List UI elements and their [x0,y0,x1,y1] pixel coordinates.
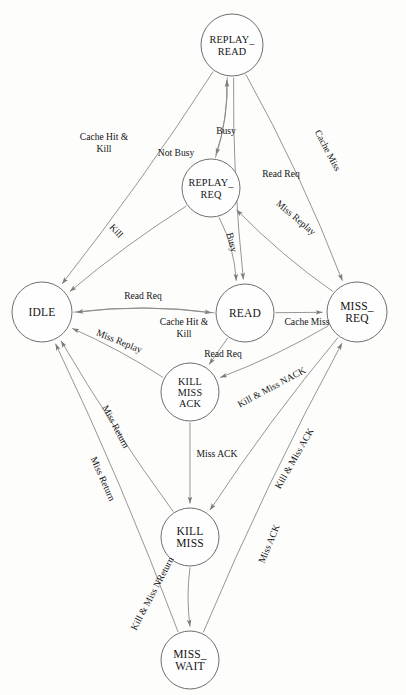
edge-label-miss_req-to-replay_req: Miss Replay [274,198,318,238]
node-label-miss_req: MISS_ [340,300,374,312]
edge-label-text: Miss ACK [197,448,238,459]
node-label-kill_miss_ack: ACK [179,398,202,409]
edge-label-text: Miss Replay [274,198,318,238]
node-circle-replay_req [182,159,240,217]
node-label-miss_req: REQ [345,312,369,324]
node-label-replay_read: READ [218,46,247,57]
edge-label-text: Busy [225,231,240,253]
edge-label-kill_miss-to-miss_wait: Kill & Miss NReturn [128,555,176,632]
node-idle: IDLE [12,282,72,342]
node-label-read: READ [229,307,261,319]
nodes-layer: REPLAY_READREPLAY_REQIDLEREADMISS_REQKIL… [12,14,387,689]
edge-label-text: Miss ACK [256,523,282,565]
edge-label-kill_miss-to-idle: Miss Return [100,403,132,450]
node-miss_req: MISS_REQ [327,282,387,342]
node-label-kill_miss_ack: MISS [178,387,203,398]
node-label-replay_read: REPLAY_ [209,34,255,45]
edge-label-replay_req-to-replay_read: Not Busy [158,147,195,158]
node-label-kill_miss: MISS [176,537,204,549]
node-label-replay_req: REPLAY_ [188,177,234,188]
node-replay_req: REPLAY_REQ [182,159,240,217]
edge-label-read-to-kill_miss_ack: Read Req [204,348,242,359]
edge-label-text: Read Req [204,348,242,359]
edge-label-text: Cache Hit & [160,316,209,327]
edge-read-to-idle [77,308,215,313]
edge-label-text: Miss Replay [95,327,144,355]
edge-label-miss_wait-to-idle: Miss Return [89,455,118,503]
edge-label-text: Cache Miss [313,128,344,173]
edge-label-kill_miss_ack-to-kill_miss: Miss ACK [197,448,238,459]
edge-label-replay_read-to-read: Read Req [262,168,300,179]
edge-label-text: Cache Hit & [80,131,129,142]
diagram-canvas: REPLAY_READREPLAY_REQIDLEREADMISS_REQKIL… [0,0,406,695]
edge-label-text: Cache Miss [284,316,329,327]
node-replay_read: REPLAY_READ [201,14,263,76]
edge-replay_req-to-replay_read [215,80,227,158]
edge-label-text: Read Req [124,290,162,301]
node-label-replay_req: REQ [201,189,222,200]
edge-kill_miss-to-miss_wait [188,568,190,627]
edge-label-replay_req-to-read: Busy [225,231,240,253]
node-miss_wait: MISS_WAIT [161,631,219,689]
edge-label-read-to-idle: Cache Hit &Kill [160,316,209,339]
node-label-idle: IDLE [29,306,56,318]
edge-label-miss_wait-to-miss_req: Miss ACK [256,523,282,565]
edge-replay_read-to-replay_req [216,77,228,155]
node-circle-replay_read [201,14,263,76]
node-label-kill_miss_ack: KILL [178,376,202,387]
edge-label-replay_read-to-replay_req: Busy [216,125,236,136]
node-label-kill_miss: KILL [177,525,204,537]
edge-label-read-to-miss_req: Cache Miss [284,316,329,327]
node-label-miss_wait: MISS_ [173,648,207,660]
edge-label-miss_req-to-kill_miss_ack: Kill & Miss NACK [235,364,307,409]
edge-label-text: Kill & Miss NReturn [128,555,176,632]
edge-label-text: Kill [107,221,125,240]
state-machine-diagram: REPLAY_READREPLAY_REQIDLEREADMISS_REQKIL… [0,0,406,695]
edge-label-replay_read-to-miss_req: Cache Miss [313,128,344,173]
edge-label-text: Read Req [262,168,300,179]
node-read: READ [216,284,274,342]
edge-label-text: Miss Return [89,455,118,503]
edge-label-kill_miss_ack-to-idle: Miss Replay [95,327,144,355]
node-label-miss_wait: WAIT [175,660,205,672]
edge-replay_req-to-idle [70,206,187,292]
edge-label-text: Busy [216,125,236,136]
edge-label-replay_read-to-idle: Cache Hit &Kill [80,131,129,154]
edge-label-text: Not Busy [158,147,195,158]
node-kill_miss_ack: KILLMISSACK [161,363,219,421]
edge-label-idle-to-read: Read Req [124,290,162,301]
edge-label-text: Kill & Miss NACK [235,364,307,409]
edge-label-text: Miss Return [100,403,132,450]
edge-label-text: Kill [177,328,192,339]
edge-label-text: Kill [97,143,112,154]
edge-label-replay_req-to-idle: Kill [107,221,125,240]
